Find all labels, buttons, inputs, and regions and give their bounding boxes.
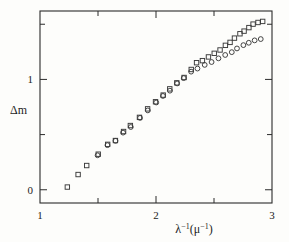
y-tick-label: 1 [28,73,34,85]
data-point-circle [195,66,200,71]
figure-container: 123 01 λ−1(μ−1)Δm [0,0,289,242]
data-point-square [85,163,89,167]
plot-border [40,11,272,203]
series-squares [65,19,265,189]
data-point-square [256,20,260,24]
x-tick-label: 3 [269,209,275,221]
x-tick-labels: 123 [37,209,275,221]
data-point-circle [209,60,214,65]
plot-frame [40,11,272,203]
data-point-square [228,40,232,44]
x-tick-label: 1 [37,209,43,221]
data-point-circle [229,50,234,55]
data-point-square [260,19,264,23]
data-point-square [76,172,80,176]
scatter-plot: 123 01 λ−1(μ−1)Δm [0,0,289,242]
data-points [65,19,265,189]
axis-ticks [40,11,272,203]
data-point-square [194,61,198,65]
y-tick-labels: 01 [28,73,34,195]
data-point-circle [241,43,246,48]
data-point-circle [252,38,257,43]
data-point-circle [246,40,251,45]
data-point-square [65,185,69,189]
data-point-square [206,55,210,59]
data-point-square [223,43,227,47]
x-axis-label: λ−1(μ−1) [175,222,212,237]
data-point-circle [223,53,228,58]
data-point-square [232,36,236,40]
data-point-circle [216,56,221,61]
y-tick-label: 0 [28,184,34,196]
data-point-square [212,51,216,55]
data-point-circle [258,37,263,42]
data-point-square [218,48,222,52]
series-circles [95,37,263,158]
y-axis-label: Δm [10,103,28,117]
x-tick-label: 2 [153,209,159,221]
data-point-circle [235,46,240,51]
